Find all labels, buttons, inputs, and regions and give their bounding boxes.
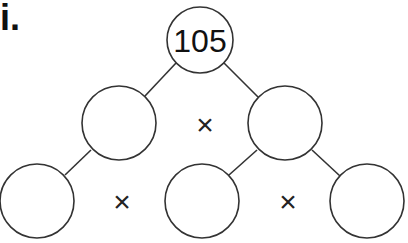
multiply-sign-bottom-right: ×: [279, 185, 297, 218]
mid-right-node-circle[interactable]: [248, 86, 322, 160]
bottom-middle-node-circle[interactable]: [165, 164, 239, 238]
multiply-sign-bottom-left: ×: [113, 185, 131, 218]
connector-root-to-mid-right: [224, 63, 258, 97]
connector-mid-right-to-bottom-right: [312, 150, 340, 176]
connector-mid-right-to-bottom-middle: [229, 150, 257, 175]
root-node-value: 105: [173, 23, 226, 59]
connector-mid-left-to-bottom-left: [65, 150, 91, 175]
bottom-left-node-circle[interactable]: [0, 164, 74, 238]
multiply-sign-middle-row: ×: [196, 108, 214, 141]
factor-tree-diagram: i. 105 × × ×: [0, 0, 408, 243]
connector-root-to-mid-left: [145, 63, 176, 96]
mid-left-node-circle[interactable]: [82, 86, 156, 160]
bottom-right-node-circle[interactable]: [330, 164, 404, 238]
